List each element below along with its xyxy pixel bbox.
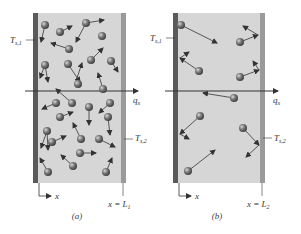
cold-surface-temperature-label: Ts,2 [274, 133, 286, 144]
boundary-label: x = L2 [246, 199, 270, 210]
cold-wall [260, 13, 265, 183]
hot-wall [33, 13, 38, 183]
gas-region [36, 13, 122, 183]
x-axis-label: x [194, 191, 199, 201]
cold-wall [121, 13, 126, 183]
boundary-label: x = L1 [107, 199, 131, 210]
hot-surface-temperature-label: Ts,1 [150, 33, 162, 44]
panel-b: Ts,1 Ts,2 qx x x = L2 (b) [150, 13, 286, 221]
x-axis-origin-arrow [179, 183, 191, 196]
heat-flux-label: qx [273, 95, 281, 106]
cold-surface-temperature-label: Ts,2 [135, 133, 147, 144]
caption-b: (b) [212, 211, 223, 221]
hot-surface-temperature-label: Ts,1 [10, 35, 22, 46]
x-axis-label: x [54, 191, 59, 201]
gas-conduction-diagram: Ts,1 Ts,2 qx x x = L1 (a) [0, 0, 301, 234]
x-axis-origin-arrow [39, 183, 51, 196]
panel-a: Ts,1 Ts,2 qx x x = L1 (a) [10, 13, 147, 221]
caption-a: (a) [72, 211, 83, 221]
hot-wall [173, 13, 178, 183]
heat-flux-label: qx [133, 95, 141, 106]
